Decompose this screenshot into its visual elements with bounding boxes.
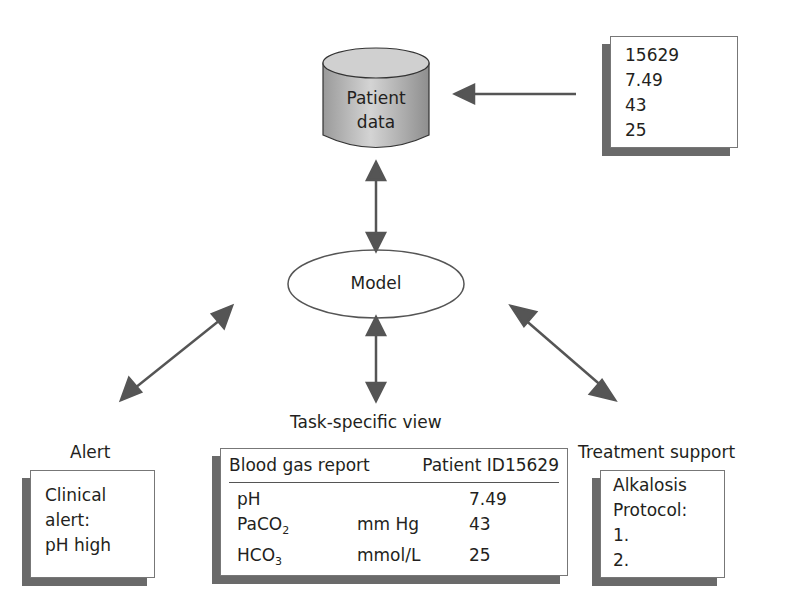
row-unit: mmol/L bbox=[357, 543, 469, 574]
alert-line: Clinical bbox=[45, 483, 154, 508]
treatment-box: Alkalosis Protocol: 1. 2. bbox=[600, 470, 725, 578]
input-value: 43 bbox=[625, 93, 737, 118]
alert-box: Clinical alert: pH high bbox=[30, 470, 155, 578]
patient-id: Patient ID15629 bbox=[422, 453, 559, 478]
treatment-line: Alkalosis bbox=[613, 473, 724, 498]
input-value: 15629 bbox=[625, 43, 737, 68]
alert-line: pH high bbox=[45, 533, 154, 558]
row-unit: mm Hg bbox=[357, 512, 469, 543]
row-subscript: 2 bbox=[282, 524, 289, 537]
report-row: HCO3 mmol/L 25 bbox=[237, 543, 559, 574]
task-view-title: Task-specific view bbox=[290, 412, 442, 432]
input-value: 25 bbox=[625, 118, 737, 143]
database-label: Patient data bbox=[323, 86, 429, 134]
alert-line: alert: bbox=[45, 508, 154, 533]
treatment-line: 1. bbox=[613, 523, 724, 548]
treatment-line: Protocol: bbox=[613, 498, 724, 523]
row-name: pH bbox=[237, 487, 357, 512]
report-title: Blood gas report bbox=[229, 453, 370, 478]
treatment-line: 2. bbox=[613, 548, 724, 573]
row-subscript: 3 bbox=[275, 555, 282, 568]
report-row: PaCO2 mm Hg 43 bbox=[237, 512, 559, 543]
row-unit bbox=[357, 487, 469, 512]
treatment-title: Treatment support bbox=[578, 442, 735, 462]
row-value: 25 bbox=[469, 543, 491, 574]
report-row: pH 7.49 bbox=[237, 487, 559, 512]
input-record-box: 15629 7.49 43 25 bbox=[610, 36, 738, 148]
database-label-line2: data bbox=[323, 110, 429, 134]
blood-gas-report: Blood gas report Patient ID15629 pH 7.49… bbox=[220, 448, 568, 576]
row-value: 43 bbox=[469, 512, 491, 543]
database-label-line1: Patient bbox=[323, 86, 429, 110]
input-value: 7.49 bbox=[625, 68, 737, 93]
row-name: PaCO bbox=[237, 514, 282, 534]
alert-title: Alert bbox=[70, 442, 110, 462]
row-name: HCO bbox=[237, 545, 275, 565]
model-label: Model bbox=[288, 273, 464, 293]
row-value: 7.49 bbox=[469, 487, 507, 512]
